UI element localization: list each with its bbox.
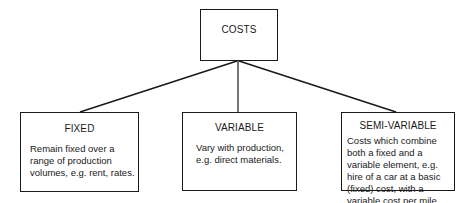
costs-title: COSTS	[201, 24, 277, 35]
connector-fixed	[80, 61, 237, 112]
connector-semi-variable	[239, 61, 396, 112]
variable-costs-box: VARIABLE Vary with production, e.g. dire…	[182, 112, 297, 191]
fixed-costs-box: FIXED Remain fixed over a range of produ…	[20, 112, 139, 192]
fixed-description: Remain fixed over a range of production …	[30, 143, 136, 179]
variable-description: Vary with production, e.g. direct materi…	[196, 142, 296, 166]
variable-title: VARIABLE	[183, 122, 296, 133]
fixed-title: FIXED	[21, 123, 138, 134]
semi-variable-costs-box: SEMI-VARIABLE Costs which combine both a…	[341, 112, 455, 191]
costs-root-box: COSTS	[200, 9, 278, 61]
semi-variable-title: SEMI-VARIABLE	[342, 120, 454, 131]
semi-variable-description: Costs which combine both a fixed and a v…	[347, 135, 455, 203]
